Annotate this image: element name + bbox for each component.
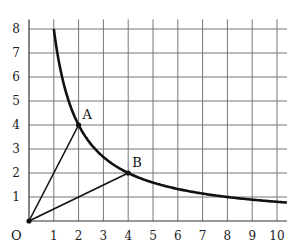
point-a	[76, 122, 81, 127]
x-tick-label: 8	[224, 229, 232, 243]
y-tick-label: 3	[12, 142, 20, 156]
point-b	[126, 170, 131, 175]
x-tick-label: 3	[100, 229, 108, 243]
x-tick-label: 5	[149, 229, 157, 243]
origin-label: O	[11, 228, 22, 243]
y-tick-label: 8	[12, 22, 20, 36]
point-o	[26, 218, 31, 223]
x-tick-label: 1	[50, 229, 58, 243]
axes	[29, 19, 287, 221]
point-markers: AB	[26, 107, 141, 224]
y-tick-label: 2	[12, 166, 20, 180]
y-tick-label: 1	[12, 190, 20, 204]
y-tick-label: 5	[12, 94, 20, 108]
hyperbola-chart: 1234567891012345678 AB O	[0, 0, 302, 250]
x-tick-label: 6	[174, 229, 182, 243]
y-tick-label: 4	[12, 118, 20, 132]
x-tick-label: 10	[269, 229, 284, 243]
x-tick-label: 7	[199, 229, 207, 243]
y-tick-label: 7	[12, 46, 20, 60]
point-label-b: B	[132, 155, 142, 170]
point-label-a: A	[82, 107, 93, 122]
grid	[29, 19, 287, 221]
x-tick-label: 4	[124, 229, 132, 243]
x-tick-label: 9	[248, 229, 256, 243]
y-tick-label: 6	[12, 70, 20, 84]
x-tick-label: 2	[75, 229, 83, 243]
